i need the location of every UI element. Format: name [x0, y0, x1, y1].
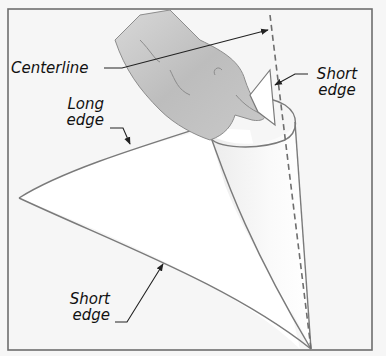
- short-edge-bottom-leader: [115, 264, 163, 322]
- diagram-frame: Centerline Long edge Short edge Short ed…: [0, 0, 386, 356]
- hand: [115, 10, 265, 140]
- short-edge-bottom-label-line2: edge: [58, 307, 110, 323]
- long-edge-label: Long edge: [52, 96, 104, 128]
- short-edge-top-leader: [275, 74, 308, 85]
- centerline-label: Centerline: [11, 60, 89, 76]
- long-edge-leader: [110, 128, 130, 144]
- short-edge-bottom-label: Short edge: [58, 291, 110, 323]
- short-edge-top-label-line2: edge: [312, 82, 362, 98]
- short-edge-top-label-line1: Short: [312, 66, 362, 82]
- short-edge-top-label: Short edge: [312, 66, 362, 98]
- long-edge-label-line2: edge: [52, 112, 104, 128]
- long-edge-label-line1: Long: [52, 96, 104, 112]
- short-edge-bottom-label-line1: Short: [58, 291, 110, 307]
